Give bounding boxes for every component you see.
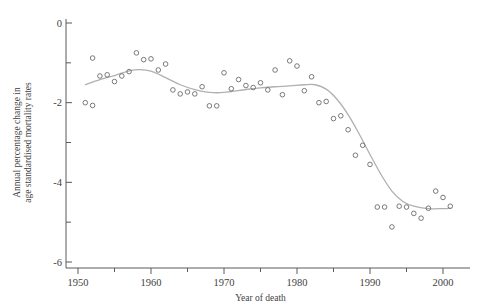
data-point — [229, 86, 234, 91]
fitted-trend-line — [85, 70, 450, 209]
data-point — [207, 104, 212, 109]
data-point — [397, 204, 402, 209]
data-point — [222, 70, 227, 75]
data-point — [163, 62, 168, 67]
data-point — [244, 83, 249, 88]
data-point — [185, 90, 190, 95]
axis-labels-group: 0-2-4-6195019601970198019902000Year of d… — [12, 18, 454, 303]
data-point — [280, 92, 285, 97]
data-point — [433, 189, 438, 194]
data-point — [368, 162, 373, 167]
data-point — [266, 88, 271, 93]
data-point — [236, 77, 241, 82]
data-point — [419, 216, 424, 221]
data-point — [112, 79, 117, 84]
y-tick-label: -4 — [53, 177, 62, 188]
data-point — [295, 64, 300, 69]
data-point — [309, 74, 314, 79]
axes-group — [66, 19, 470, 274]
x-tick-label: 1950 — [68, 277, 89, 288]
y-axis-title-line-2: age standardised mortality rates — [23, 82, 33, 203]
data-point — [83, 100, 88, 105]
data-point — [382, 205, 387, 210]
data-point — [200, 84, 205, 89]
data-point — [141, 57, 146, 62]
data-point — [360, 143, 365, 148]
data-point — [331, 116, 336, 121]
scatter-plot-svg: 0-2-4-6195019601970198019902000Year of d… — [0, 0, 477, 306]
data-point — [302, 88, 307, 93]
chart-figure: 0-2-4-6195019601970198019902000Year of d… — [0, 0, 477, 306]
data-point — [324, 99, 329, 104]
data-point — [404, 205, 409, 210]
x-tick-label: 1960 — [141, 277, 162, 288]
y-axis-title-line-1: Annual percentage change in — [12, 87, 22, 198]
x-tick-label: 2000 — [433, 277, 454, 288]
data-point — [98, 74, 103, 79]
data-point — [390, 225, 395, 230]
data-point — [375, 205, 380, 210]
data-point — [346, 127, 351, 132]
data-point — [273, 68, 278, 73]
data-point — [412, 211, 417, 216]
data-point — [214, 104, 219, 109]
data-point — [287, 59, 292, 64]
y-tick-label: -6 — [53, 257, 62, 268]
data-point — [156, 68, 161, 73]
x-tick-label: 1970 — [214, 277, 235, 288]
data-points-group — [83, 51, 453, 230]
data-point — [171, 88, 176, 93]
y-tick-label: -2 — [53, 97, 62, 108]
data-point — [258, 80, 263, 85]
x-axis-title: Year of death — [235, 293, 286, 303]
data-point — [339, 114, 344, 119]
data-point — [441, 195, 446, 200]
data-point — [90, 103, 95, 108]
data-point — [120, 74, 125, 79]
fitted-curve-group — [85, 70, 450, 209]
x-tick-label: 1990 — [360, 277, 381, 288]
data-point — [134, 51, 139, 56]
data-point — [193, 92, 198, 97]
data-point — [105, 72, 110, 77]
data-point — [317, 100, 322, 105]
x-tick-label: 1980 — [287, 277, 308, 288]
y-tick-label: 0 — [57, 18, 62, 29]
data-point — [149, 57, 154, 62]
data-point — [90, 56, 95, 61]
data-point — [178, 92, 183, 97]
data-point — [353, 153, 358, 158]
